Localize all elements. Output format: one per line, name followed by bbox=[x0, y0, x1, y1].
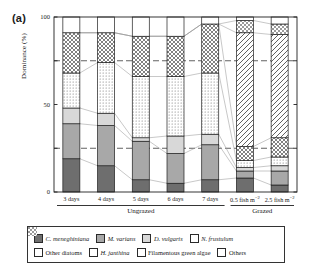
bar-segment bbox=[167, 136, 184, 154]
bar-segment bbox=[271, 24, 288, 35]
legend-item-label: M. varians bbox=[108, 235, 136, 242]
bar-segment bbox=[167, 154, 184, 184]
bar-segment bbox=[98, 33, 115, 63]
bar-segment bbox=[236, 147, 253, 161]
bar-segment bbox=[132, 141, 149, 180]
bar-segment bbox=[271, 171, 288, 185]
y-axis-tick-label: 0 bbox=[32, 188, 50, 195]
legend-swatch-icon bbox=[96, 234, 105, 243]
y-axis-tick-label: 100 bbox=[32, 13, 50, 20]
bar-segment bbox=[98, 63, 115, 114]
bar-segment bbox=[167, 17, 184, 36]
legend-item-label: H. janthina bbox=[100, 249, 129, 256]
bar-segment bbox=[98, 113, 115, 125]
figure-panel-a: (a) Dominance (%) C. meneghinianaM. vari… bbox=[0, 0, 311, 274]
bar-segment bbox=[202, 134, 219, 145]
bar-segment bbox=[236, 17, 253, 21]
bar-segment bbox=[271, 35, 288, 138]
bar-segment bbox=[63, 17, 80, 33]
legend-row-1: C. meneghinianaM. variansD. vulgarisN. f… bbox=[34, 231, 280, 245]
legend-item[interactable]: Others bbox=[217, 248, 246, 257]
bar-segment bbox=[271, 17, 288, 24]
bar-segment bbox=[63, 73, 80, 108]
legend-item[interactable]: H. janthina bbox=[89, 248, 130, 257]
bar-segment bbox=[63, 124, 80, 159]
bar-segment bbox=[132, 36, 149, 76]
bar-segment bbox=[271, 157, 288, 166]
legend-swatch-icon bbox=[217, 248, 226, 257]
bar-segment bbox=[132, 77, 149, 138]
bar-segment bbox=[132, 138, 149, 142]
legend-item[interactable]: Filamentous green algae bbox=[137, 248, 211, 257]
bar-segment bbox=[98, 17, 115, 33]
bar-segment bbox=[63, 159, 80, 192]
legend-item-label: D. vulgaris bbox=[154, 235, 183, 242]
group-label: Grazed bbox=[231, 207, 294, 215]
legend-item[interactable]: N. frustulum bbox=[190, 234, 233, 243]
x-axis-tick-label: 2.5 fish m−2 bbox=[256, 195, 304, 203]
legend-swatch-icon bbox=[142, 234, 151, 243]
legend-item-label: Other diatoms bbox=[46, 249, 82, 256]
bar-segment bbox=[98, 126, 115, 166]
bar-segment bbox=[63, 108, 80, 124]
bar-segment bbox=[98, 166, 115, 192]
legend-swatch-icon bbox=[34, 248, 43, 257]
legend-item-label: Others bbox=[229, 249, 246, 256]
legend-swatch-icon bbox=[89, 248, 98, 257]
legend-row-2: Other diatomsH. janthinaFilamentous gree… bbox=[34, 245, 280, 259]
bar-segment bbox=[202, 73, 219, 134]
bar-group bbox=[63, 17, 288, 192]
group-label: Ungrazed bbox=[57, 207, 225, 215]
legend-swatch-icon bbox=[190, 234, 199, 243]
legend-item-label: Filamentous green algae bbox=[148, 249, 210, 256]
bar-segment bbox=[167, 183, 184, 192]
bar-segment bbox=[202, 17, 219, 24]
bar-segment bbox=[132, 17, 149, 36]
bar-segment bbox=[271, 138, 288, 157]
bar-segment bbox=[202, 24, 219, 73]
legend-item[interactable]: Other diatoms bbox=[34, 248, 82, 257]
chart-legend: C. meneghinianaM. variansD. vulgarisN. f… bbox=[27, 226, 285, 263]
bar-segment bbox=[132, 180, 149, 192]
bar-segment bbox=[167, 77, 184, 137]
bar-segment bbox=[271, 166, 288, 171]
legend-item-label: C. meneghiniana bbox=[46, 235, 90, 242]
bar-segment bbox=[236, 21, 253, 33]
bar-segment bbox=[236, 171, 253, 178]
bar-segment bbox=[236, 161, 253, 168]
legend-item[interactable]: M. varians bbox=[96, 234, 135, 243]
bar-segment bbox=[202, 180, 219, 192]
bar-segment bbox=[63, 33, 80, 73]
bar-segment bbox=[202, 145, 219, 180]
bar-segment bbox=[167, 36, 184, 76]
bar-segment bbox=[236, 168, 253, 172]
bar-segment bbox=[236, 33, 253, 147]
legend-swatch-icon bbox=[137, 248, 146, 257]
y-axis-tick-label: 50 bbox=[32, 101, 50, 108]
legend-item[interactable]: C. meneghiniana bbox=[34, 234, 89, 243]
bar-segment bbox=[236, 178, 253, 192]
legend-item-label: N. frustulum bbox=[201, 235, 233, 242]
bar-segment bbox=[271, 185, 288, 192]
legend-item[interactable]: D. vulgaris bbox=[142, 234, 182, 243]
